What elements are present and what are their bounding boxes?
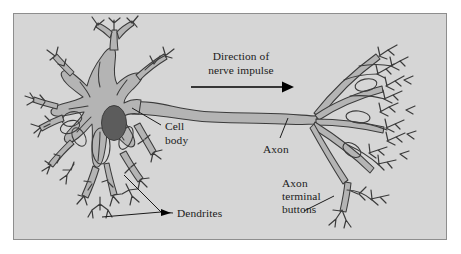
- neuron-diagram-panel: Direction of nerve impulse Cell body Axo…: [13, 13, 447, 240]
- cropped-caption-remnant: [0, 0, 461, 2]
- figure-page: Direction of nerve impulse Cell body Axo…: [0, 0, 461, 254]
- axon-label-text: Axon: [263, 143, 289, 155]
- dendrites-label-text: Dendrites: [177, 207, 223, 219]
- dendrites-arrowhead: [161, 209, 171, 216]
- cell-body-label-line2: body: [165, 134, 188, 146]
- axon-terminal-label-line3: buttons: [282, 203, 317, 215]
- axon-terminal-label-line2: terminal: [282, 190, 321, 202]
- axon-terminal-label-line1: Axon: [282, 177, 308, 189]
- nucleus: [102, 106, 127, 141]
- direction-of-impulse-label: Direction of nerve impulse: [208, 50, 274, 76]
- direction-label-line1: Direction of: [213, 50, 270, 62]
- neuron-diagram-svg: Direction of nerve impulse Cell body Axo…: [14, 14, 446, 239]
- axon-shape: [132, 102, 317, 125]
- axon-terminal-buttons-label: Axon terminal buttons: [282, 177, 334, 215]
- direction-label-line2: nerve impulse: [208, 64, 274, 76]
- dendrites-label: Dendrites: [102, 175, 223, 219]
- cell-body-label-line1: Cell: [165, 120, 184, 132]
- nerve-impulse-arrow: [191, 82, 294, 93]
